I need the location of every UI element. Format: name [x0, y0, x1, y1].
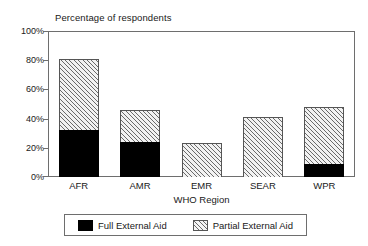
bar-segment-partial-external-aid [243, 117, 283, 177]
bar-group [120, 31, 160, 177]
x-axis-tick-label: AFR [48, 180, 109, 191]
x-axis-tick-label: AMR [109, 180, 170, 191]
y-axis-tick-label: 40% [26, 114, 44, 123]
legend: Full External AidPartial External Aid [64, 214, 307, 236]
bar-stack [120, 110, 160, 177]
bar-group [304, 31, 344, 177]
x-axis-title: WHO Region [48, 194, 355, 205]
legend-label: Partial External Aid [213, 220, 293, 231]
bar-stack [59, 59, 99, 177]
bar-segment-full-external-aid [59, 130, 99, 177]
x-axis: AFRAMREMRSEARWPR [48, 180, 355, 194]
bars-layer [48, 31, 355, 177]
y-axis-tick-label: 60% [26, 85, 44, 94]
solid-black-swatch [78, 220, 93, 231]
bar-segment-full-external-aid [304, 164, 344, 177]
bar-chart: Percentage of respondents 0%20%40%60%80%… [0, 0, 368, 246]
bar-segment-full-external-aid [120, 142, 160, 177]
y-axis: 0%20%40%60%80%100% [0, 31, 44, 177]
bar-stack [243, 117, 283, 177]
plot-title: Percentage of respondents [55, 12, 172, 23]
y-axis-tick-label: 80% [26, 56, 44, 65]
bar-group [243, 31, 283, 177]
bar-stack [304, 107, 344, 177]
bar-stack [182, 143, 222, 177]
bar-segment-partial-external-aid [304, 107, 344, 164]
bar-segment-partial-external-aid [59, 59, 99, 131]
legend-label: Full External Aid [98, 220, 167, 231]
x-axis-tick-label: WPR [294, 180, 355, 191]
y-axis-tick-label: 100% [21, 27, 44, 36]
bar-segment-partial-external-aid [120, 110, 160, 142]
legend-entry: Partial External Aid [193, 220, 293, 231]
legend-entry: Full External Aid [78, 220, 167, 231]
hatched-swatch [193, 220, 208, 231]
bar-group [182, 31, 222, 177]
bar-group [59, 31, 99, 177]
y-axis-tick-label: 20% [26, 143, 44, 152]
bar-segment-partial-external-aid [182, 143, 222, 177]
x-axis-tick-label: EMR [171, 180, 232, 191]
x-axis-tick-label: SEAR [232, 180, 293, 191]
